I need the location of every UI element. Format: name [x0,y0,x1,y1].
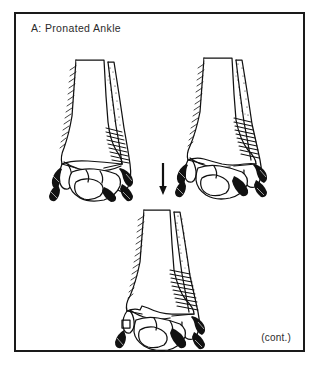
figure-title: A: Pronated Ankle [31,22,121,34]
progression-arrow [154,162,172,196]
ankle-illustration-stage-3 [108,204,224,352]
ankle-illustration-stage-1 [42,56,154,204]
figure-panel: A: Pronated Ankle [14,12,305,352]
ankle-illustration-stage-2 [174,54,286,202]
page-header-fragment [258,0,304,9]
continuation-label: (cont.) [261,332,291,343]
